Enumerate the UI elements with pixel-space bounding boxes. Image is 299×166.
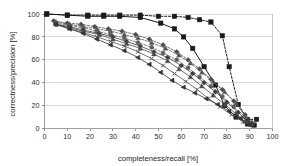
data-point-marker: [147, 62, 151, 67]
data-point-marker: [202, 64, 206, 68]
data-point-marker: [122, 48, 126, 53]
data-point-marker: [161, 51, 165, 55]
data-point-marker: [173, 72, 177, 76]
data-point-marker: [209, 20, 213, 24]
data-point-marker: [45, 12, 49, 16]
y-tick-label: 80: [32, 33, 40, 42]
data-point-marker: [122, 44, 126, 48]
x-tick-label: 20: [86, 132, 94, 141]
data-point-marker: [192, 91, 196, 96]
x-tick-labels: 0102030405060708090100: [43, 132, 279, 141]
y-tick-label: 0: [36, 124, 40, 133]
x-tick-label: 90: [246, 132, 254, 141]
data-point-marker: [150, 45, 154, 49]
data-point-marker: [118, 14, 122, 18]
x-tick-label: 60: [177, 132, 185, 141]
x-tick-label: 50: [155, 132, 163, 141]
data-point-marker: [122, 36, 126, 40]
x-tick-label: 30: [109, 132, 117, 141]
data-point-marker: [197, 18, 201, 22]
data-point-marker: [181, 85, 185, 90]
data-point-marker: [220, 34, 224, 38]
data-point-marker: [136, 50, 140, 54]
data-point-marker: [165, 58, 170, 62]
data-point-marker: [172, 14, 176, 18]
series-line: [56, 24, 250, 125]
data-point-marker: [156, 14, 160, 18]
data-point-marker: [191, 46, 195, 50]
data-point-marker: [135, 55, 139, 60]
data-point-marker: [172, 27, 176, 31]
y-tick-labels: 020406080100: [28, 10, 40, 134]
data-point-marker: [136, 41, 140, 45]
data-point-marker: [159, 21, 163, 25]
data-point-marker: [161, 64, 165, 68]
data-point-marker: [186, 15, 190, 19]
data-point-marker: [181, 35, 185, 39]
x-axis-title: completeness/recall [%]: [118, 154, 198, 163]
data-series-group: [45, 12, 259, 128]
data-point-marker: [227, 64, 231, 68]
y-tick-label: 60: [32, 55, 40, 64]
y-axis-title: correctness/precision [%]: [8, 32, 17, 117]
data-point-marker: [138, 15, 142, 19]
gridlines: [45, 14, 273, 106]
y-tick-label: 40: [32, 78, 40, 87]
data-point-marker: [215, 102, 219, 107]
chart-canvas: 020406080100 0102030405060708090100 comp…: [0, 0, 299, 166]
x-tick-label: 70: [200, 132, 208, 141]
x-tick-label: 100: [267, 132, 279, 141]
data-point-marker: [65, 13, 69, 17]
data-point-marker: [254, 117, 258, 121]
x-tick-label: 40: [132, 132, 140, 141]
data-point-marker: [175, 58, 179, 62]
y-tick-label: 20: [32, 101, 40, 110]
precision-recall-chart: 020406080100 0102030405060708090100 comp…: [0, 0, 299, 166]
x-tick-label: 0: [43, 132, 47, 141]
x-tick-label: 10: [63, 132, 71, 141]
data-point-marker: [86, 14, 90, 18]
series-line: [56, 24, 250, 125]
data-point-marker: [102, 14, 106, 18]
y-tick-label: 100: [28, 10, 40, 19]
x-tick-label: 80: [223, 132, 231, 141]
